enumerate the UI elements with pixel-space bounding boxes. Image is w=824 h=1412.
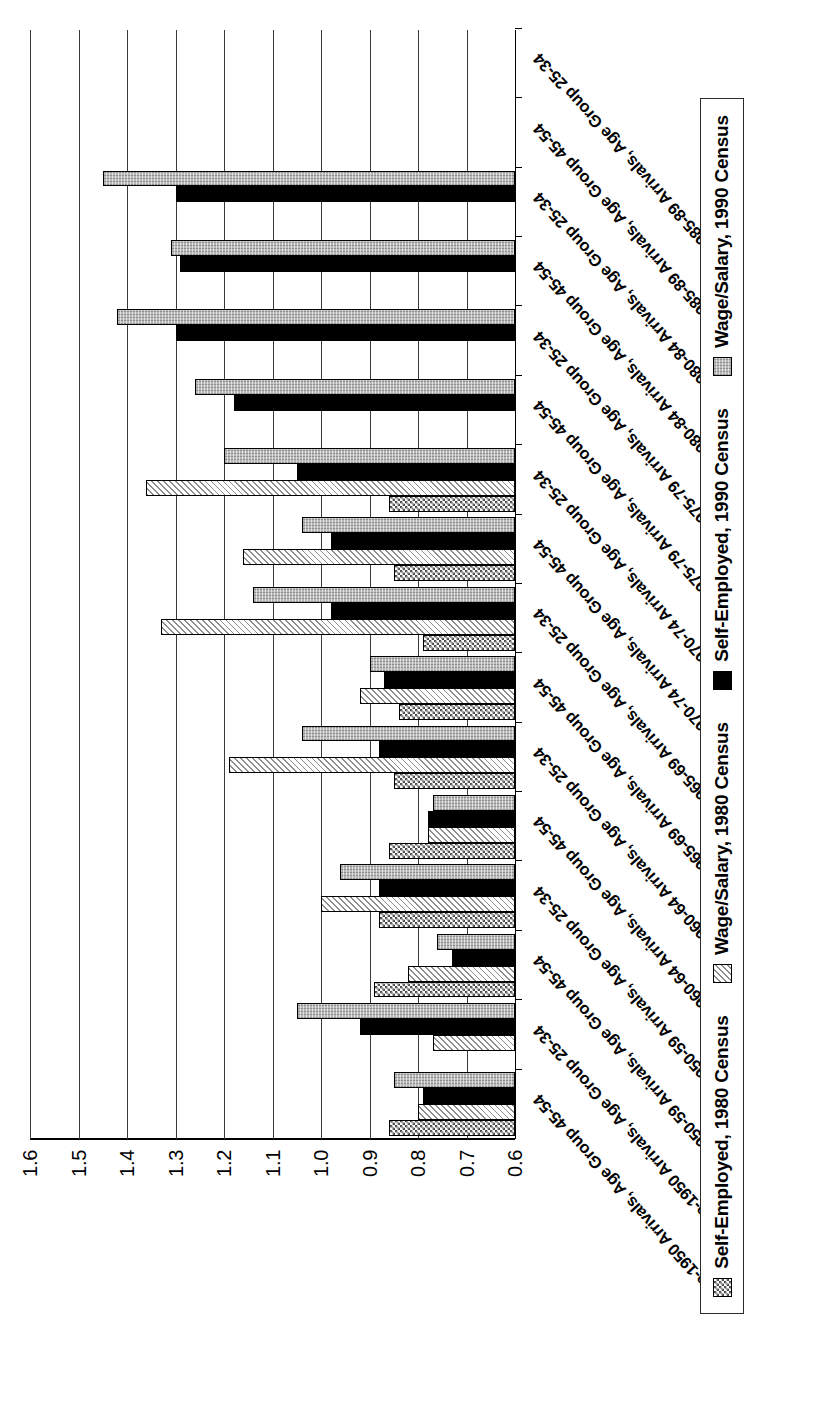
bar bbox=[360, 1019, 515, 1035]
bar-group bbox=[30, 795, 515, 859]
bar bbox=[389, 496, 515, 512]
checkerboard-swatch bbox=[713, 1278, 732, 1297]
bar-group bbox=[30, 448, 515, 512]
bar bbox=[423, 635, 515, 651]
bar bbox=[117, 309, 515, 325]
bar-group bbox=[30, 1072, 515, 1136]
value-tick-label: 0.9 bbox=[359, 1150, 382, 1196]
bar bbox=[146, 480, 515, 496]
legend-label: Wage/Salary, 1990 Census bbox=[711, 115, 733, 348]
bar bbox=[340, 864, 515, 880]
bar bbox=[374, 982, 515, 998]
bar bbox=[423, 1088, 515, 1104]
bar bbox=[418, 1104, 515, 1120]
value-tick-label: 1.0 bbox=[310, 1150, 333, 1196]
bar-chart: 1.61.51.41.31.21.11.00.90.80.70.6 Pre-19… bbox=[0, 0, 824, 1412]
bar bbox=[408, 966, 515, 982]
chart-stage: 1.61.51.41.31.21.11.00.90.80.70.6 Pre-19… bbox=[0, 0, 824, 1412]
bar bbox=[399, 704, 515, 720]
black-swatch bbox=[713, 671, 732, 690]
bar bbox=[103, 171, 515, 187]
legend-item: Wage/Salary, 1990 Census bbox=[711, 115, 733, 376]
bar bbox=[394, 1072, 515, 1088]
bar-group bbox=[30, 379, 515, 443]
bar bbox=[234, 395, 515, 411]
bar bbox=[428, 827, 515, 843]
bar bbox=[176, 187, 516, 203]
category-tick bbox=[515, 28, 522, 29]
value-tick-label: 1.1 bbox=[262, 1150, 285, 1196]
plot-area bbox=[30, 30, 515, 1140]
bar bbox=[302, 517, 515, 533]
value-tick-label: 1.4 bbox=[116, 1150, 139, 1196]
bar-group bbox=[30, 517, 515, 581]
bar bbox=[171, 240, 515, 256]
bar bbox=[428, 811, 515, 827]
bar-group bbox=[30, 101, 515, 165]
legend-label: Self-Employed, 1980 Census bbox=[711, 1015, 733, 1269]
bar-group bbox=[30, 240, 515, 304]
bar bbox=[394, 565, 515, 581]
bar bbox=[243, 549, 515, 565]
bar-group bbox=[30, 1003, 515, 1067]
bar-group bbox=[30, 32, 515, 96]
hatch-swatch bbox=[713, 964, 732, 983]
category-label: Pre-1950 Arrivals, Age Group 45-54 bbox=[529, 1091, 824, 1412]
legend-item: Wage/Salary, 1980 Census bbox=[711, 722, 733, 983]
bar bbox=[297, 464, 515, 480]
bar-group bbox=[30, 934, 515, 998]
bar bbox=[161, 619, 515, 635]
bar bbox=[384, 672, 515, 688]
bar bbox=[433, 795, 515, 811]
bar bbox=[360, 688, 515, 704]
bar-group bbox=[30, 171, 515, 235]
bar bbox=[389, 843, 515, 859]
value-tick-label: 1.3 bbox=[165, 1150, 188, 1196]
value-tick-label: 0.6 bbox=[504, 1150, 527, 1196]
value-tick-label: 0.8 bbox=[407, 1150, 430, 1196]
bar bbox=[297, 1003, 515, 1019]
bar bbox=[379, 880, 515, 896]
bar-group bbox=[30, 726, 515, 790]
bar bbox=[176, 325, 516, 341]
bar bbox=[224, 448, 515, 464]
bar bbox=[331, 533, 515, 549]
bar-group bbox=[30, 864, 515, 928]
legend-label: Wage/Salary, 1980 Census bbox=[711, 722, 733, 955]
value-tick-label: 0.7 bbox=[456, 1150, 479, 1196]
value-tick-label: 1.5 bbox=[68, 1150, 91, 1196]
bar bbox=[302, 726, 515, 742]
value-tick-label: 1.6 bbox=[19, 1150, 42, 1196]
bar-group bbox=[30, 656, 515, 720]
bar bbox=[331, 603, 515, 619]
category-axis-labels: Pre-1950 Arrivals, Age Group 45-54Pre-19… bbox=[515, 30, 815, 1140]
bar-groups bbox=[30, 30, 515, 1139]
bar bbox=[370, 656, 516, 672]
bar bbox=[433, 1035, 515, 1051]
bar bbox=[437, 934, 515, 950]
value-tick-label: 1.2 bbox=[213, 1150, 236, 1196]
bar bbox=[180, 256, 515, 272]
legend-label: Self-Employed, 1990 Census bbox=[711, 408, 733, 662]
chart-legend: Self-Employed, 1980 CensusWage/Salary, 1… bbox=[700, 98, 744, 1314]
bar bbox=[195, 379, 515, 395]
bar bbox=[321, 896, 515, 912]
bar bbox=[379, 912, 515, 928]
grey-swatch bbox=[713, 357, 732, 376]
legend-item: Self-Employed, 1990 Census bbox=[711, 408, 733, 690]
bar-group bbox=[30, 309, 515, 373]
legend-item: Self-Employed, 1980 Census bbox=[711, 1015, 733, 1297]
bar-group bbox=[30, 587, 515, 651]
bar bbox=[452, 950, 515, 966]
bar bbox=[389, 1120, 515, 1136]
bar bbox=[253, 587, 515, 603]
rotated-figure: 1.61.51.41.31.21.11.00.90.80.70.6 Pre-19… bbox=[0, 0, 824, 1412]
bar bbox=[379, 742, 515, 758]
bar bbox=[394, 773, 515, 789]
bar bbox=[229, 757, 515, 773]
